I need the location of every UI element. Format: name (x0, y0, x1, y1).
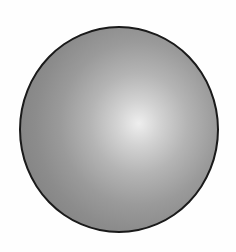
canvas (0, 0, 236, 252)
shaded-sphere (19, 26, 219, 233)
